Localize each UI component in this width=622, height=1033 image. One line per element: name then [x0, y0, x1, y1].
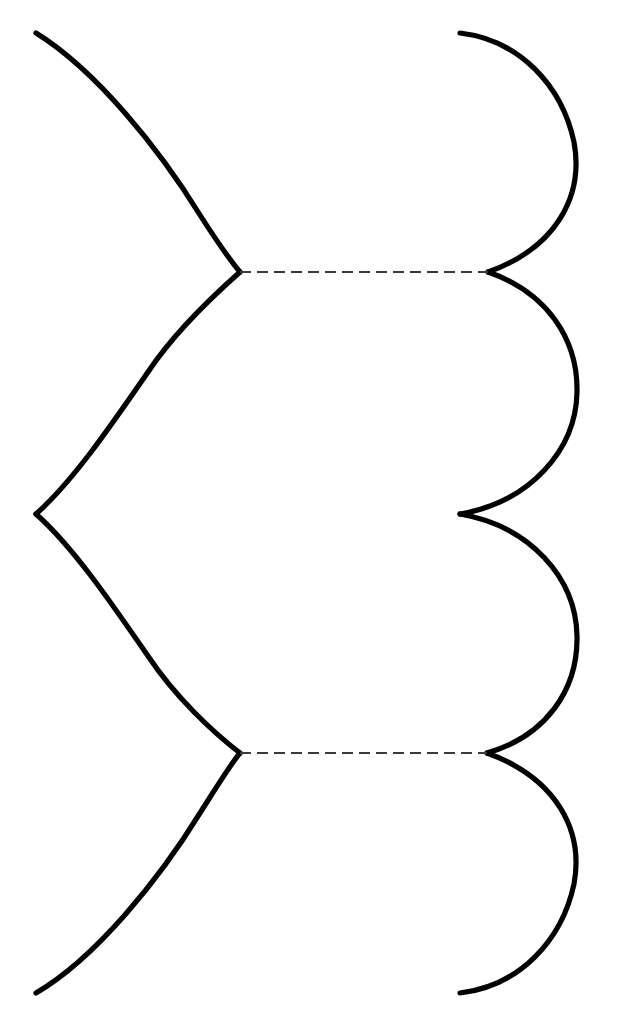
diagram-canvas [0, 0, 622, 1033]
line-art-diagram [0, 0, 622, 1033]
background-rect [0, 0, 622, 1033]
